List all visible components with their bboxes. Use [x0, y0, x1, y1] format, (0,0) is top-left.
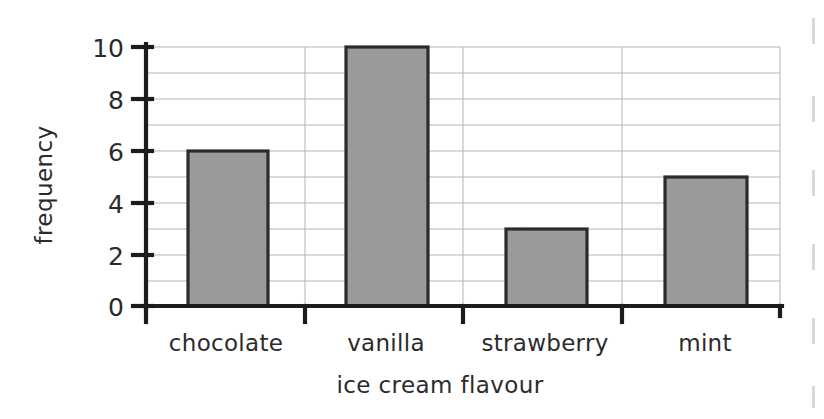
- figure-canvas: 10 8 6 4 2 0 chocolate vanilla strawberr…: [0, 0, 824, 419]
- y-tick-label-0: 0: [108, 293, 124, 322]
- y-tick-label-10: 10: [92, 34, 124, 63]
- bar-strawberry: [506, 229, 587, 306]
- category-label-chocolate: chocolate: [169, 330, 283, 356]
- y-tick-label-2: 2: [108, 242, 124, 271]
- bar-chart: 10 8 6 4 2 0 chocolate vanilla strawberr…: [0, 0, 824, 419]
- bar-mint: [665, 177, 747, 306]
- y-axis-title: frequency: [31, 126, 57, 245]
- y-tick-label-4: 4: [108, 190, 124, 219]
- x-axis-title: ice cream flavour: [336, 372, 543, 398]
- y-tick-label-6: 6: [108, 138, 124, 167]
- category-label-vanilla: vanilla: [347, 330, 425, 356]
- bar-vanilla: [346, 47, 428, 306]
- bar-chocolate: [188, 151, 268, 306]
- category-label-mint: mint: [678, 330, 732, 356]
- category-label-strawberry: strawberry: [481, 330, 608, 356]
- y-tick-label-8: 8: [108, 86, 124, 115]
